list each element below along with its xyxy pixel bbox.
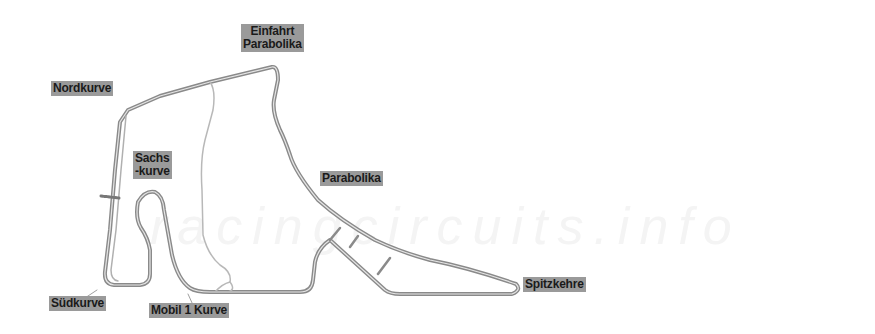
label-nordkurve: Nordkurve bbox=[51, 81, 113, 96]
track-layout bbox=[0, 0, 875, 334]
start-finish-marker bbox=[101, 196, 119, 198]
label-mobil-1-kurve: Mobil 1 Kurve bbox=[149, 303, 229, 318]
label-sachskurve: Sachs -kurve bbox=[133, 151, 172, 179]
label-line: Parabolika bbox=[243, 38, 302, 51]
short-circuit-link bbox=[201, 82, 230, 292]
gp-track bbox=[105, 67, 518, 294]
service-road bbox=[330, 228, 340, 240]
label-spitzkehre: Spitzkehre bbox=[523, 277, 586, 292]
circuit-map: racingcircuits.info Einfahrt Parabolika … bbox=[0, 0, 875, 334]
label-parabolika: Parabolika bbox=[320, 171, 383, 186]
label-sudkurve: Südkurve bbox=[49, 296, 106, 311]
label-line: -kurve bbox=[135, 165, 170, 178]
label-einfahrt-parabolika: Einfahrt Parabolika bbox=[241, 24, 304, 52]
